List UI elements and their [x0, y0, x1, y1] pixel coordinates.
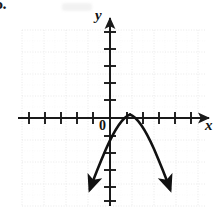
y-axis-label: y — [95, 8, 102, 23]
origin-label: 0 — [99, 119, 106, 133]
parabola-curve — [130, 115, 170, 190]
graph-figure: 5. — [0, 0, 213, 212]
x-axis-label: x — [205, 118, 213, 133]
coordinate-plane — [0, 0, 213, 212]
